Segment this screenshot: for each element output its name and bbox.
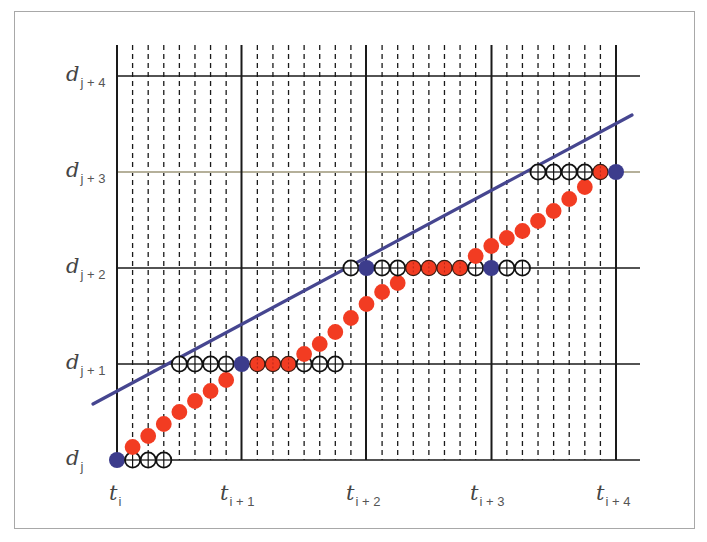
- red-dot: [343, 310, 359, 326]
- x-label-0: ti: [109, 481, 121, 509]
- open-circle: [343, 260, 358, 275]
- open-circle: [374, 260, 389, 275]
- red-dot: [359, 296, 375, 312]
- open-circle: [530, 164, 545, 179]
- open-circle: [156, 452, 171, 467]
- red-dot-on-row: [593, 164, 608, 179]
- red-dot: [499, 230, 515, 246]
- open-circle: [577, 164, 592, 179]
- red-dot: [483, 238, 499, 254]
- blue-dot: [109, 452, 125, 468]
- red-dot: [296, 346, 312, 362]
- open-circle: [499, 260, 514, 275]
- blue-dot: [483, 260, 499, 276]
- red-dot: [203, 383, 219, 399]
- open-circle: [312, 356, 327, 371]
- open-circle: [172, 356, 187, 371]
- open-circle: [546, 164, 561, 179]
- red-dot: [327, 324, 343, 340]
- red-dot-on-row: [265, 356, 280, 371]
- red-dot: [546, 203, 562, 219]
- red-dot-on-row: [421, 260, 436, 275]
- red-dot: [312, 336, 328, 352]
- blue-dot: [234, 356, 250, 372]
- blue-dot: [359, 260, 375, 276]
- x-label-4: ti + 4: [596, 481, 630, 509]
- open-circle: [219, 356, 234, 371]
- blue-dot: [608, 164, 624, 180]
- y-label-1: dj + 1: [66, 350, 105, 378]
- red-dot: [125, 439, 141, 455]
- red-dot: [468, 248, 484, 264]
- open-circle: [141, 452, 156, 467]
- open-circle: [203, 356, 218, 371]
- red-dot-on-row: [437, 260, 452, 275]
- y-label-0: dj: [66, 446, 83, 474]
- red-dot: [577, 179, 593, 195]
- y-axis-labels: djdj + 1dj + 2dj + 3dj + 4: [66, 62, 105, 474]
- y-label-3: dj + 3: [66, 158, 105, 186]
- red-dot: [374, 284, 390, 300]
- red-dot: [530, 213, 546, 229]
- open-circle: [328, 356, 343, 371]
- red-dot: [187, 393, 203, 409]
- red-dot: [218, 372, 234, 388]
- x-label-2: ti + 2: [346, 481, 380, 509]
- open-circle: [515, 260, 530, 275]
- y-label-2: dj + 2: [66, 254, 105, 282]
- x-label-1: ti + 1: [220, 481, 254, 509]
- red-dot-on-row: [250, 356, 265, 371]
- red-dot: [140, 428, 156, 444]
- open-circle: [390, 260, 405, 275]
- x-label-3: ti + 3: [470, 481, 504, 509]
- red-dot-on-row: [406, 260, 421, 275]
- red-dot-on-row: [452, 260, 467, 275]
- open-circle: [187, 356, 202, 371]
- red-dot: [156, 416, 172, 432]
- x-axis-labels: titi + 1ti + 2ti + 3ti + 4: [109, 481, 630, 509]
- staircase-diagram: djdj + 1dj + 2dj + 3dj + 4 titi + 1ti + …: [0, 0, 707, 542]
- open-circle: [562, 164, 577, 179]
- red-dot-on-row: [281, 356, 296, 371]
- red-dot: [390, 275, 406, 291]
- red-dot: [561, 191, 577, 207]
- red-dot: [515, 223, 531, 239]
- red-dot: [171, 404, 187, 420]
- y-label-4: dj + 4: [66, 62, 105, 90]
